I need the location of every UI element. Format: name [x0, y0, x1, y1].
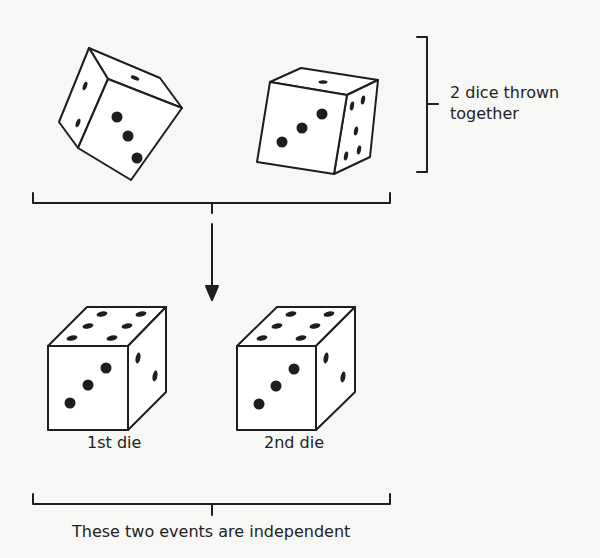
top-bracket: [33, 193, 390, 213]
down-arrow-icon: [206, 224, 218, 300]
first-die-label: 1st die: [87, 432, 141, 453]
second-die-label: 2nd die: [264, 432, 324, 453]
thrown-die-left: [59, 48, 182, 180]
thrown-bracket: [417, 37, 438, 172]
thrown-die-right: [257, 68, 378, 174]
bottom-bracket: [33, 494, 390, 515]
independence-caption: These two events are independent: [72, 521, 350, 542]
first-die: [48, 307, 166, 430]
second-die: [237, 307, 355, 430]
thrown-together-label: 2 dice thrown together: [450, 82, 559, 124]
